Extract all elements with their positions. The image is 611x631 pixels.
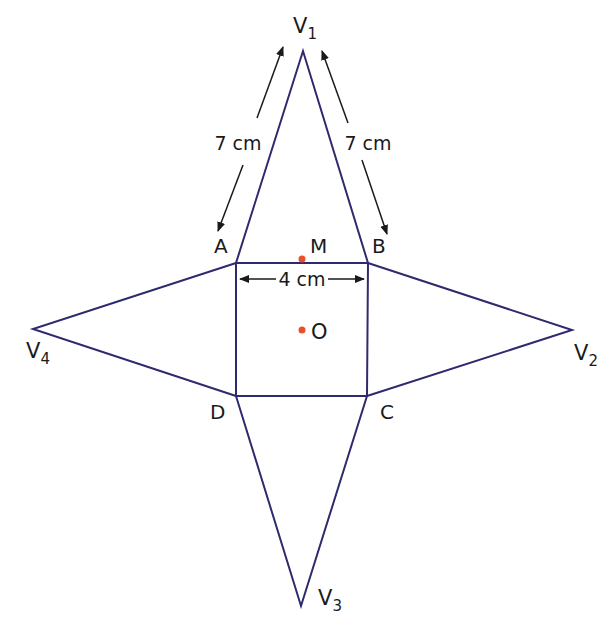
dimension-label-left: 7 cm (214, 132, 261, 154)
apex-v2-label: V2 (574, 341, 598, 370)
vertex-a-label: A (214, 234, 228, 258)
dimension-arrow-right-lower (362, 160, 387, 234)
face-left-triangle (33, 263, 236, 396)
apex-v4-label: V4 (26, 339, 50, 368)
vertex-c-label: C (380, 400, 394, 424)
apex-v3-label: V3 (318, 586, 342, 615)
face-bottom-triangle (236, 396, 367, 606)
dimension-arrow-left-upper (257, 47, 283, 118)
point-o-dot (299, 327, 306, 334)
pyramid-net-diagram: 7 cm 7 cm 4 cm M O A B D C V1 V2 V3 V4 (0, 0, 611, 631)
point-m-label: M (310, 234, 327, 258)
apex-v1-label: V1 (293, 14, 317, 43)
dimension-arrow-left-lower (218, 165, 243, 231)
dimension-label-base: 4 cm (278, 268, 325, 290)
vertex-b-label: B (372, 234, 386, 258)
dimension-label-right: 7 cm (344, 132, 391, 154)
point-m-dot (299, 256, 306, 263)
point-o-label: O (311, 320, 328, 344)
face-right-triangle (367, 263, 572, 396)
dimension-arrow-right-upper (322, 51, 348, 123)
vertex-d-label: D (210, 400, 225, 424)
face-top-triangle (236, 51, 368, 263)
